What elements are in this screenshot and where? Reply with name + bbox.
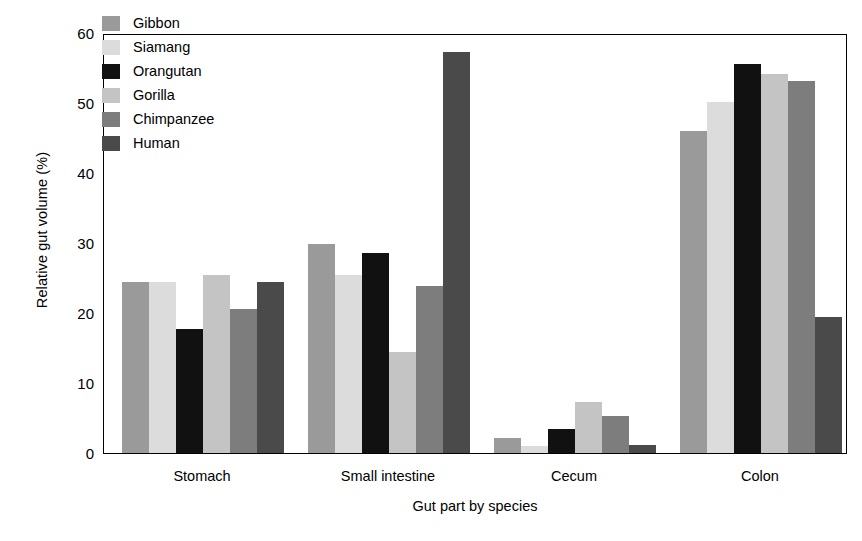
bar-group xyxy=(680,35,842,453)
legend-label: Siamang xyxy=(133,40,190,55)
y-tick-label: 60 xyxy=(50,26,94,41)
bar[interactable] xyxy=(575,402,602,453)
x-axis-title: Gut part by species xyxy=(103,497,847,515)
legend-swatch-icon xyxy=(102,64,120,79)
bar[interactable] xyxy=(443,52,470,453)
bar[interactable] xyxy=(788,81,815,453)
bar[interactable] xyxy=(176,329,203,453)
bar-group xyxy=(494,35,656,453)
bar[interactable] xyxy=(335,275,362,453)
legend-swatch-icon xyxy=(102,88,120,103)
bar[interactable] xyxy=(122,282,149,454)
bar[interactable] xyxy=(707,102,734,453)
legend-item[interactable]: Gibbon xyxy=(102,12,214,34)
y-tick-label: 50 xyxy=(50,96,94,111)
chart-legend: GibbonSiamangOrangutanGorillaChimpanzeeH… xyxy=(102,12,214,154)
bar[interactable] xyxy=(734,64,761,453)
legend-item[interactable]: Chimpanzee xyxy=(102,108,214,130)
bar[interactable] xyxy=(761,74,788,453)
bar[interactable] xyxy=(257,282,284,454)
legend-swatch-icon xyxy=(102,136,120,151)
bar[interactable] xyxy=(815,317,842,453)
bars-layer xyxy=(104,35,846,453)
bar-group xyxy=(308,35,470,453)
chart-figure: Relative gut volume (%) 6050403020100 Gi… xyxy=(0,0,862,541)
y-tick-label: 20 xyxy=(50,306,94,321)
bar[interactable] xyxy=(149,282,176,454)
bar[interactable] xyxy=(494,438,521,453)
plot-area xyxy=(103,34,847,454)
legend-label: Gorilla xyxy=(133,88,175,103)
legend-swatch-icon xyxy=(102,16,120,31)
x-tick-label: Cecum xyxy=(484,466,664,486)
legend-item[interactable]: Human xyxy=(102,132,214,154)
x-tick-label: Colon xyxy=(670,466,850,486)
bar[interactable] xyxy=(230,309,257,453)
y-tick-label: 10 xyxy=(50,376,94,391)
bar[interactable] xyxy=(521,446,548,453)
legend-item[interactable]: Gorilla xyxy=(102,84,214,106)
y-axis-tick-labels: 6050403020100 xyxy=(40,0,94,541)
bar[interactable] xyxy=(308,244,335,453)
bar[interactable] xyxy=(203,275,230,454)
legend-swatch-icon xyxy=(102,112,120,127)
bar[interactable] xyxy=(629,445,656,453)
bar[interactable] xyxy=(602,416,629,453)
y-tick-label: 40 xyxy=(50,166,94,181)
legend-swatch-icon xyxy=(102,40,120,55)
legend-item[interactable]: Siamang xyxy=(102,36,214,58)
bar[interactable] xyxy=(680,131,707,453)
x-axis-tick-labels: StomachSmall intestineCecumColon xyxy=(103,466,847,488)
x-tick-label: Stomach xyxy=(112,466,292,486)
legend-label: Chimpanzee xyxy=(133,112,214,127)
x-tick-label: Small intestine xyxy=(298,466,478,486)
legend-item[interactable]: Orangutan xyxy=(102,60,214,82)
bar[interactable] xyxy=(548,429,575,453)
y-tick-label: 30 xyxy=(50,236,94,251)
bar[interactable] xyxy=(362,253,389,453)
bar[interactable] xyxy=(389,352,416,453)
legend-label: Gibbon xyxy=(133,16,180,31)
y-tick-label: 0 xyxy=(50,446,94,461)
bar[interactable] xyxy=(416,286,443,453)
legend-label: Orangutan xyxy=(133,64,202,79)
legend-label: Human xyxy=(133,136,180,151)
